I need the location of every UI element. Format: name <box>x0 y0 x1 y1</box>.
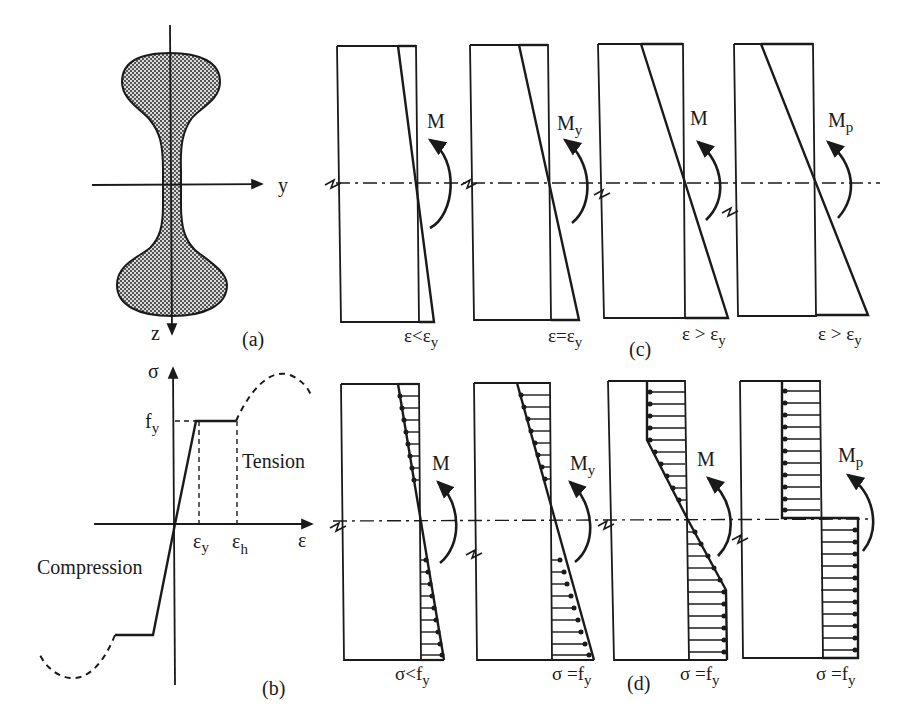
panel-d-stress-distributions: M σ<fy <box>330 381 873 695</box>
strain-diagram-1: M ε<εy <box>325 46 451 350</box>
stress-diagram-2: My σ =fy <box>466 383 596 688</box>
panel-a-caption: (a) <box>242 328 264 351</box>
moment-label: My <box>570 452 596 478</box>
strain-condition-label: ε<εy <box>404 325 439 350</box>
stress-diagram-3: M σ =fy <box>598 381 731 688</box>
neutral-axis-d <box>333 519 870 521</box>
stress-condition-label: σ =fy <box>680 663 720 688</box>
moment-label: M <box>432 452 450 474</box>
sigma-label: σ <box>148 360 159 382</box>
panel-d-caption: (d) <box>627 672 650 695</box>
tension-hardening-dashed <box>236 374 311 421</box>
panel-b-stress-strain-chart: σ fy Tension Compression εy εh ε (b) <box>37 360 312 700</box>
moment-label: M <box>690 107 708 129</box>
panel-c-strain-distributions: M ε<εy My ε=εy M ε > εy <box>325 44 880 361</box>
y-axis-label: y <box>278 174 288 197</box>
stress-condition-label: σ =fy <box>816 663 856 688</box>
strain-diagram-3: M ε > εy <box>594 44 728 348</box>
eps-h-label: εh <box>232 530 248 557</box>
stress-diagram-4: Mp σ =fy <box>732 381 873 688</box>
fy-label: fy <box>145 410 160 436</box>
strain-diagram-4: Mp ε > εy <box>722 44 868 348</box>
panel-a-cross-section: y z (a) <box>92 25 288 351</box>
compression-label: Compression <box>37 556 143 579</box>
strain-diagram-2: My ε=εy <box>461 45 587 350</box>
z-axis-label: z <box>151 322 160 344</box>
strain-condition-label: ε=εy <box>548 325 583 350</box>
strain-condition-label: ε > εy <box>682 323 726 348</box>
epsilon-label: ε <box>298 529 306 551</box>
moment-label: My <box>557 112 583 138</box>
moment-label: M <box>697 448 715 470</box>
panel-c-caption: (c) <box>629 338 651 361</box>
compression-curve <box>115 524 175 635</box>
strain-condition-label: ε > εy <box>818 323 862 348</box>
moment-label: Mp <box>838 444 863 470</box>
stress-diagram-1: M σ<fy <box>330 384 456 688</box>
stress-condition-label: σ<fy <box>395 663 430 688</box>
tension-curve <box>175 421 236 524</box>
panel-b-caption: (b) <box>262 677 285 700</box>
stress-condition-label: σ =fy <box>552 663 592 688</box>
eps-y-label: εy <box>193 530 209 555</box>
tension-label: Tension <box>242 450 305 472</box>
moment-label: M <box>427 110 445 132</box>
figure-canvas: y z (a) σ fy Tension Compression εy εh ε… <box>0 0 903 725</box>
compression-hardening-dashed <box>40 635 115 678</box>
y-axis <box>92 184 262 185</box>
moment-label: Mp <box>828 109 853 135</box>
